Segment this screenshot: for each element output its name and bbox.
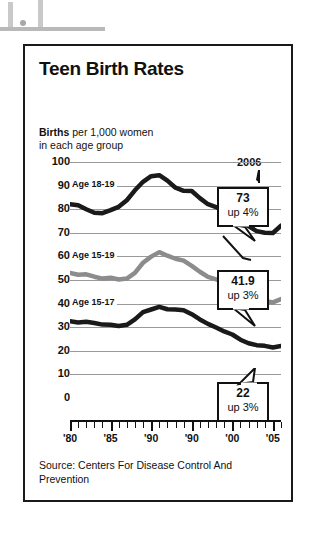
artifact-baseline	[0, 27, 105, 31]
top-partial-graphic	[0, 0, 317, 40]
x-tick-2003	[257, 422, 258, 428]
y-tick-40: 40	[40, 297, 70, 309]
x-tick-1986	[119, 422, 120, 428]
series-label-age-18-19: Age 18-19	[70, 179, 117, 189]
x-tick-1982	[86, 422, 87, 428]
callout-box-73: 73 up 4%	[217, 187, 269, 227]
y-tick-100: 100	[40, 155, 70, 167]
x-tick-1999	[224, 422, 225, 428]
x-tick-1993	[176, 422, 177, 428]
callout-value-22: 22	[219, 384, 267, 400]
callout-tail-3	[235, 368, 259, 386]
x-tick-2002	[249, 422, 250, 428]
artifact-dot	[20, 20, 26, 26]
artifact-bar-right	[38, 0, 43, 28]
series-label-age-15-17: Age 15-17	[70, 297, 117, 307]
callout-change-41-9: up 3%	[219, 288, 267, 302]
x-tick-2005	[273, 422, 275, 431]
x-tick-1988	[135, 422, 136, 428]
x-tick-1981	[78, 422, 79, 428]
x-tick-1983	[94, 422, 95, 428]
y-tick-0: 0	[40, 391, 70, 403]
x-tick-1980	[70, 422, 72, 431]
y-tick-10: 10	[40, 367, 70, 379]
y-tick-90: 90	[40, 179, 70, 191]
y-tick-60: 60	[40, 249, 70, 261]
y-tick-80: 80	[40, 202, 70, 214]
x-tick-2000	[232, 422, 234, 431]
x-tick-1996	[200, 422, 201, 428]
callout-tail-2	[233, 308, 259, 328]
callout-box-22: 22 up 3%	[217, 382, 269, 422]
subtitle-bold-word: Births	[39, 126, 69, 138]
y-tick-70: 70	[40, 226, 70, 238]
subtitle-line2: in each age group	[39, 139, 123, 151]
callout-change-22: up 3%	[219, 400, 267, 414]
x-tick-1991	[159, 422, 160, 428]
series-label-age-15-19: Age 15-19	[70, 250, 117, 260]
x-tick-2006	[281, 422, 282, 428]
x-tick-2001	[240, 422, 241, 428]
page-title: Teen Birth Rates	[39, 58, 184, 80]
x-axis-label-4: '00	[225, 432, 239, 444]
artifact-bar-left	[8, 2, 13, 28]
x-axis-label-2: '90	[144, 432, 158, 444]
x-axis: '80'85'90'90'00'05	[70, 420, 281, 460]
x-tick-1994	[184, 422, 185, 428]
x-axis-label-1: '85	[103, 432, 117, 444]
x-axis-label-5: '05	[266, 432, 280, 444]
x-tick-1995	[192, 422, 194, 431]
callout-value-73: 73	[219, 189, 267, 205]
callout-box-41-9: 41.9 up 3%	[217, 270, 269, 310]
callout-value-41-9: 41.9	[219, 272, 267, 288]
x-tick-1992	[167, 422, 168, 428]
infographic-card: Teen Birth Rates Births per 1,000 women …	[23, 44, 293, 502]
source-note: Source: Centers For Disease Control And …	[39, 458, 283, 486]
y-tick-20: 20	[40, 344, 70, 356]
x-tick-1990	[151, 422, 153, 431]
callout-tail-1	[233, 225, 259, 243]
subtitle-rest: per 1,000 women	[69, 126, 153, 138]
y-axis-labels: 100 90 80 70 60 50 40 30 20 10 0	[39, 162, 70, 398]
x-tick-1984	[102, 422, 103, 428]
callout-change-73: up 4%	[219, 205, 267, 219]
y-tick-30: 30	[40, 320, 70, 332]
x-axis-label-3: '90	[185, 432, 199, 444]
x-tick-2004	[265, 422, 266, 428]
x-tick-1985	[111, 422, 113, 431]
x-tick-1997	[208, 422, 209, 428]
x-tick-1998	[216, 422, 217, 428]
chart-subtitle: Births per 1,000 women in each age group	[39, 126, 239, 152]
x-tick-1989	[143, 422, 144, 428]
x-axis-label-0: '80	[63, 432, 77, 444]
y-tick-50: 50	[40, 273, 70, 285]
x-tick-1987	[127, 422, 128, 428]
